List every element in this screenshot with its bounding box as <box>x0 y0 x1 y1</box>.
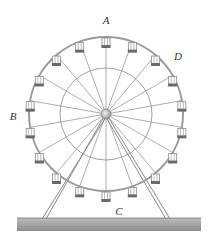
ferris-wheel-figure: A B C D <box>0 0 208 239</box>
gondola-base <box>75 50 84 53</box>
point-label-d: D <box>174 51 182 62</box>
gondola-base <box>151 181 160 184</box>
gondola-base <box>128 194 137 197</box>
wheel-hub <box>101 109 111 119</box>
point-label-b: B <box>10 111 17 122</box>
point-label-a: A <box>103 15 110 26</box>
gondola <box>177 101 186 112</box>
spoke <box>106 55 155 114</box>
gondola-base <box>26 135 35 138</box>
gondola <box>52 55 61 66</box>
gondola <box>102 37 111 48</box>
ferris-wheel-diagram <box>0 0 208 239</box>
gondola-base <box>102 199 111 202</box>
gondola <box>151 173 160 184</box>
gondola <box>151 55 160 66</box>
gondola-base <box>75 194 84 197</box>
gondola-base <box>177 135 186 138</box>
gondola-base <box>151 63 160 66</box>
spoke <box>57 55 106 114</box>
gondola-base <box>168 161 177 164</box>
ground <box>17 218 201 231</box>
gondola-base <box>52 63 61 66</box>
gondola <box>168 153 177 164</box>
gondola <box>35 153 44 164</box>
support-leg <box>104 114 166 219</box>
gondola <box>26 127 35 138</box>
hub <box>101 109 111 119</box>
gondola-base <box>35 84 44 87</box>
spoke <box>57 114 106 173</box>
gondola-base <box>177 109 186 112</box>
gondola-base <box>52 181 61 184</box>
spoke <box>80 114 106 186</box>
gondola <box>128 42 137 53</box>
gondola <box>168 76 177 87</box>
gondola <box>128 186 137 197</box>
ground-band <box>17 218 201 231</box>
support-leg <box>46 115 105 219</box>
spoke <box>106 114 155 173</box>
gondola <box>177 127 186 138</box>
gondola <box>52 173 61 184</box>
gondola <box>75 186 84 197</box>
gondola <box>102 191 111 202</box>
gondola-base <box>35 161 44 164</box>
gondola <box>26 101 35 112</box>
gondola <box>35 76 44 87</box>
support-leg <box>42 114 108 219</box>
point-label-c: C <box>115 206 122 217</box>
gondola-base <box>102 45 111 48</box>
gondola-base <box>128 50 137 53</box>
gondola-base <box>26 109 35 112</box>
gondola-base <box>168 84 177 87</box>
gondola <box>75 42 84 53</box>
